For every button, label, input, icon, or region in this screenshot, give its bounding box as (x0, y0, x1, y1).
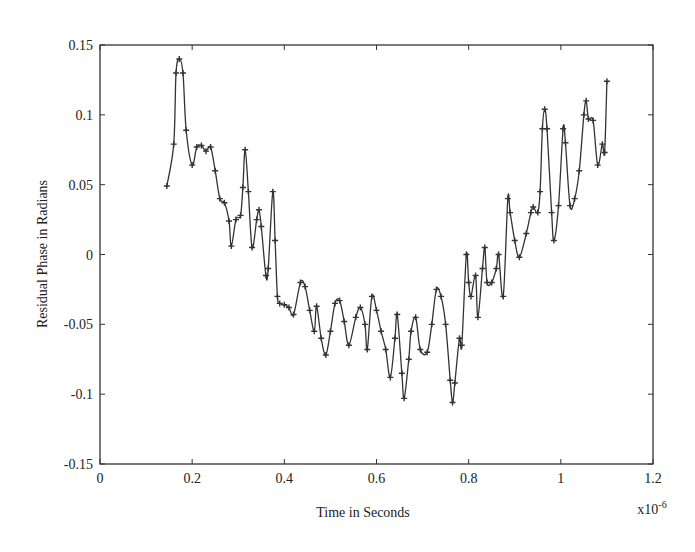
data-point-marker (171, 141, 177, 147)
data-point-marker (245, 189, 251, 195)
x-tick-label: 0.4 (276, 471, 294, 486)
y-tick-label: 0.05 (69, 178, 94, 193)
data-point-marker (466, 279, 472, 285)
data-point-marker (581, 112, 587, 118)
y-tick-label: -0.15 (64, 457, 93, 472)
line-chart: 00.20.40.60.811.2 0.150.10.050-0.05-0.1-… (0, 0, 695, 552)
data-point-marker (408, 328, 414, 334)
data-point-marker (505, 196, 511, 202)
data-point-marker (346, 342, 352, 348)
data-point-marker (450, 400, 456, 406)
data-point-marker (353, 314, 359, 320)
data-point-marker (272, 238, 278, 244)
data-point-marker (362, 321, 368, 327)
data-point-marker (302, 284, 308, 290)
data-point-marker (595, 162, 601, 168)
data-point-marker (576, 168, 582, 174)
data-point-marker (327, 328, 333, 334)
data-point-marker (383, 346, 389, 352)
x-axis: 00.20.40.60.811.2 (97, 45, 662, 486)
data-point-marker (542, 106, 548, 112)
data-point-marker (459, 342, 465, 348)
data-point-marker (307, 307, 313, 313)
data-point-marker (583, 98, 589, 104)
data-point-marker (537, 189, 543, 195)
data-point-marker (468, 293, 474, 299)
data-point-marker (374, 307, 380, 313)
y-tick-label: 0 (86, 248, 93, 263)
data-point-marker (240, 184, 246, 190)
data-point-marker (208, 144, 214, 150)
data-point-marker (378, 328, 384, 334)
y-tick-label: -0.1 (71, 387, 93, 402)
data-point-marker (585, 116, 591, 122)
data-point-marker (270, 189, 276, 195)
data-point-marker (475, 314, 481, 320)
data-point-marker (249, 245, 255, 251)
data-point-marker (544, 126, 550, 132)
data-point-marker (604, 78, 610, 84)
x-tick-label: 0.6 (368, 471, 386, 486)
data-point-marker (438, 293, 444, 299)
data-point-marker (429, 321, 435, 327)
data-point-marker (560, 126, 566, 132)
x-tick-label: 0.8 (460, 471, 478, 486)
data-point-marker (528, 210, 534, 216)
x-axis-title: Time in Seconds (316, 505, 410, 520)
data-point-marker (556, 203, 562, 209)
data-point-marker (392, 335, 398, 341)
data-point-marker (212, 168, 218, 174)
data-point-marker (265, 265, 271, 271)
data-point-marker (164, 183, 170, 189)
data-point-marker (602, 150, 608, 156)
data-point-marker (551, 238, 557, 244)
x-tick-label: 1.2 (644, 471, 662, 486)
data-point-marker (523, 231, 529, 237)
x-tick-label: 1 (557, 471, 564, 486)
data-point-marker (226, 218, 232, 224)
data-point-marker (417, 346, 423, 352)
data-point-marker (173, 70, 179, 76)
data-point-marker (254, 217, 260, 223)
data-point-marker (562, 140, 568, 146)
x-tick-label: 0 (97, 471, 104, 486)
y-tick-label: -0.05 (64, 317, 93, 332)
data-point-marker (341, 319, 347, 325)
data-point-marker (512, 238, 518, 244)
data-point-marker (463, 252, 469, 258)
data-point-marker (433, 286, 439, 292)
data-point-marker (311, 328, 317, 334)
plot-frame (100, 45, 653, 464)
data-point-marker (242, 147, 248, 153)
data-point-marker (482, 245, 488, 251)
data-point-marker (228, 243, 234, 249)
data-point-marker (180, 70, 186, 76)
data-point-marker (387, 374, 393, 380)
y-axis: 0.150.10.050-0.05-0.1-0.15 (64, 38, 653, 472)
data-point-marker (399, 370, 405, 376)
data-point-marker (500, 293, 506, 299)
y-tick-label: 0.1 (76, 108, 94, 123)
data-point-marker (406, 356, 412, 362)
data-point-marker (507, 210, 513, 216)
data-point-marker (401, 395, 407, 401)
data-point-marker (493, 265, 499, 271)
data-point-marker (549, 210, 555, 216)
data-point-marker (479, 265, 485, 271)
y-axis-title: Residual Phase in Radians (35, 180, 50, 328)
x-multiplier-label: x10-6 (637, 499, 666, 517)
data-point-marker (443, 321, 449, 327)
data-point-marker (274, 293, 280, 299)
data-point-marker (394, 312, 400, 318)
x-tick-label: 0.2 (183, 471, 201, 486)
data-point-marker (572, 196, 578, 202)
data-point-marker (183, 127, 189, 133)
data-point-marker (473, 272, 479, 278)
data-point-marker (496, 252, 502, 258)
series-line (167, 59, 607, 403)
data-point-marker (258, 224, 264, 230)
data-point-marker (364, 346, 370, 352)
data-point-marker (256, 207, 262, 213)
data-point-marker (318, 335, 324, 341)
data-point-marker (314, 303, 320, 309)
